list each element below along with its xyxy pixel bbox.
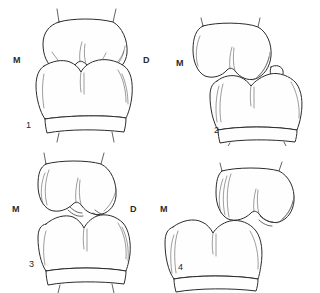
panel-3: M D 3 <box>0 147 160 293</box>
figure-plate: M D 1 <box>0 0 320 293</box>
panel-2-drawing <box>160 0 320 146</box>
panel-1: M D 1 <box>0 0 160 146</box>
panel-3-number: 3 <box>29 260 34 269</box>
panel-2: M 2 <box>160 0 320 146</box>
panel-1-distal-label: D <box>143 56 150 65</box>
panel-3-distal-label: D <box>130 205 137 214</box>
panel-4: M 4 <box>160 147 320 293</box>
panel-2-number: 2 <box>214 126 219 135</box>
panel-4-mesial-label: M <box>160 205 168 214</box>
panel-4-number: 4 <box>178 263 183 272</box>
panel-1-mesial-label: M <box>13 56 21 65</box>
panel-3-mesial-label: M <box>12 205 20 214</box>
panel-3-drawing <box>0 147 160 293</box>
panel-1-number: 1 <box>26 121 31 130</box>
panel-2-mesial-label: M <box>176 59 184 68</box>
panel-4-drawing <box>160 147 320 293</box>
panel-1-drawing <box>0 0 160 146</box>
